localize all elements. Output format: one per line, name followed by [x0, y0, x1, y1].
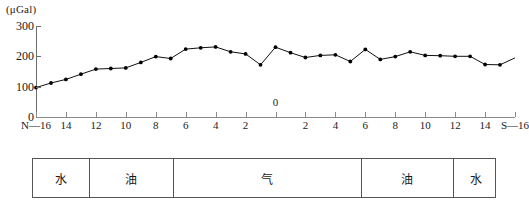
- data-point: [393, 55, 397, 59]
- data-point: [334, 53, 338, 57]
- data-point: [259, 63, 263, 67]
- y-tick-mark: [36, 56, 41, 57]
- data-point: [468, 54, 472, 58]
- data-point: [304, 56, 308, 60]
- data-point: [498, 63, 502, 67]
- data-point: [109, 67, 113, 71]
- strata-cell-label: 油: [401, 170, 413, 187]
- data-point: [184, 47, 188, 51]
- data-point: [348, 60, 352, 64]
- strata-cell: 油: [90, 159, 173, 197]
- gravity-profile-chart: (μGal) 0100200300 N—16141210864224681012…: [0, 0, 527, 145]
- strata-cell: 水: [33, 159, 90, 197]
- strata-cell-label: 气: [261, 170, 273, 187]
- strata-cell-label: 水: [470, 170, 482, 187]
- data-series-plot: [0, 0, 527, 145]
- data-point: [169, 57, 173, 61]
- data-point: [319, 54, 323, 58]
- strata-cell: 油: [362, 159, 454, 197]
- data-point: [64, 78, 68, 82]
- data-point: [289, 51, 293, 55]
- data-point: [49, 81, 53, 85]
- data-point: [453, 54, 457, 58]
- data-point: [244, 52, 248, 56]
- strata-cell-label: 油: [125, 170, 137, 187]
- strata-cell-label: 水: [55, 170, 67, 187]
- data-point: [378, 58, 382, 62]
- y-tick-mark: [36, 26, 41, 27]
- strata-table: 水油气油水: [32, 158, 496, 198]
- strata-cell: 水: [454, 159, 499, 197]
- data-point: [274, 45, 278, 49]
- data-point: [199, 46, 203, 50]
- data-point: [154, 55, 158, 59]
- data-point: [483, 63, 487, 67]
- strata-cell: 气: [174, 159, 362, 197]
- data-point: [363, 48, 367, 52]
- data-point: [408, 50, 412, 54]
- data-point: [94, 67, 98, 71]
- data-point: [214, 45, 218, 49]
- series-markers: [34, 45, 502, 90]
- data-point: [124, 66, 128, 70]
- series-polyline: [36, 47, 515, 88]
- y-tick-mark: [36, 87, 41, 88]
- data-point: [423, 54, 427, 58]
- data-point: [139, 61, 143, 65]
- data-point: [229, 50, 233, 54]
- data-point: [438, 54, 442, 58]
- data-point: [79, 72, 83, 76]
